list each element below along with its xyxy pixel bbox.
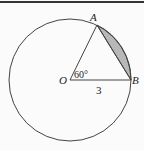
- chord-AB: [97, 25, 131, 80]
- label-O: O: [59, 74, 67, 86]
- radius-label: 3: [96, 84, 102, 96]
- geometry-figure: A O B 60° 3: [0, 0, 144, 150]
- angle-label: 60°: [74, 69, 88, 80]
- label-A: A: [89, 11, 97, 23]
- label-B: B: [132, 74, 139, 86]
- circle-diagram: A O B 60° 3: [0, 0, 144, 150]
